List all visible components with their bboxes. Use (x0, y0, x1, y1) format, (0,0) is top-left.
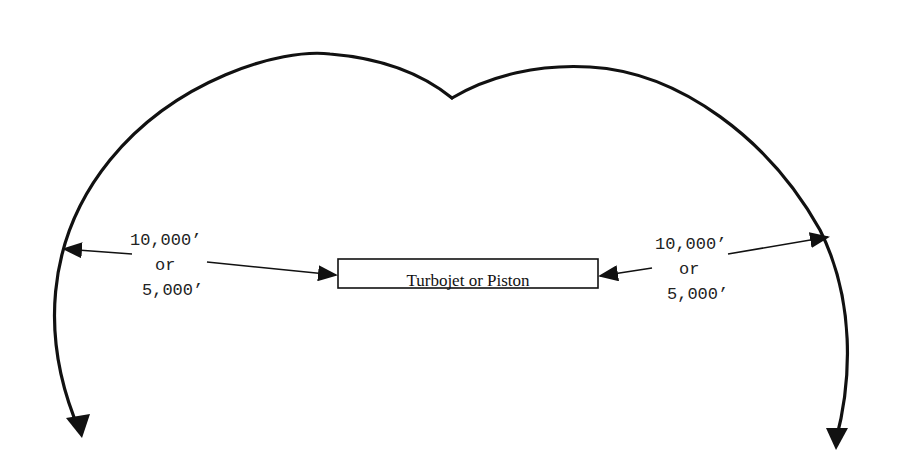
airspace-diagram: Turbojet or Piston 10,000’ or 5,000’ 10,… (0, 0, 898, 468)
right-inner-dimension-arrow (600, 268, 652, 276)
left-inner-dimension-arrow (207, 262, 336, 275)
right-dimension-line3: 5,000’ (667, 285, 728, 304)
left-boundary-arc (55, 53, 452, 432)
right-boundary-arc (452, 67, 847, 440)
left-dimension-line1: 10,000’ (130, 231, 201, 250)
right-dimension-line1: 10,000’ (655, 235, 726, 254)
left-dimension-line3: 5,000’ (142, 281, 203, 300)
center-box-label: Turbojet or Piston (406, 271, 530, 290)
right-outer-dimension-arrow (728, 237, 828, 254)
right-arc-arrowhead-icon (826, 428, 848, 450)
left-arc-arrowhead-icon (66, 414, 90, 438)
left-outer-dimension-arrow (64, 249, 132, 254)
right-dimension-line2: or (679, 260, 699, 279)
left-dimension-line2: or (155, 256, 175, 275)
